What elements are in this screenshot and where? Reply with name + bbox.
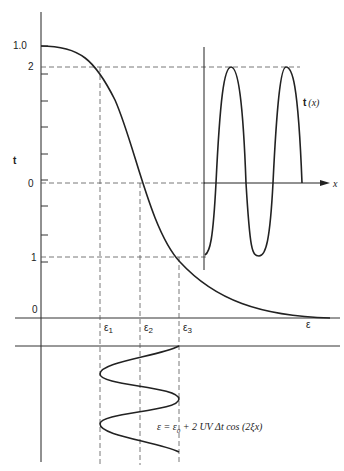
tick-label-0: 0 — [32, 304, 38, 315]
x-axis-label: ε — [306, 319, 311, 330]
y-ticks — [41, 46, 48, 262]
eps2-label: ε2 — [144, 322, 153, 335]
tick-label-1: 1 — [31, 252, 37, 263]
arrow-icon — [320, 180, 330, 186]
eps-x-curve — [100, 346, 179, 452]
tick-label-2: 2 — [28, 61, 34, 72]
t-x-curve — [205, 67, 302, 256]
eps1-label: ε1 — [104, 322, 113, 335]
eps3-label: ε3 — [183, 322, 192, 335]
y-axis-label: t — [13, 155, 17, 166]
inset-x-label: x — [332, 178, 338, 189]
tick-label-0-mid: 0 — [28, 178, 34, 189]
tick-label-1-0: 1.0 — [13, 40, 27, 51]
diagram: 1.0 2 t 0 1 0 ε1 ε2 ε3 ε t(x) x ε = ε0 +… — [0, 0, 344, 471]
formula: ε = ε0 + 2 UV Δt cos (2ξx) — [157, 421, 263, 435]
t-eps-curve — [41, 46, 330, 318]
inset-t-label: t(x) — [303, 97, 320, 109]
